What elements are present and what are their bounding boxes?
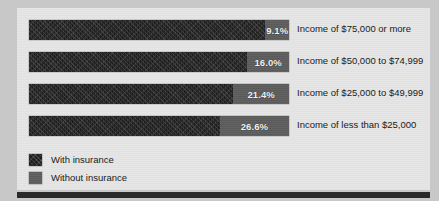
- bar-value-label: 16.0%: [254, 57, 281, 68]
- bar-segment-without-insurance: 26.6%: [220, 116, 289, 136]
- bar-value-label: 26.6%: [241, 121, 268, 132]
- legend-swatch-icon: [29, 154, 42, 166]
- legend-item-with-insurance[interactable]: With insurance: [29, 152, 127, 167]
- legend-item-label: With insurance: [51, 154, 114, 165]
- chart-bar-row: 9.1% Income of $75,000 or more: [29, 20, 289, 40]
- bar-segment-with-insurance: [29, 116, 220, 136]
- legend-swatch-icon: [29, 172, 42, 184]
- bar-segment-with-insurance: [29, 84, 233, 104]
- stacked-bar[interactable]: 21.4%: [29, 84, 289, 104]
- legend-item-without-insurance[interactable]: Without insurance: [29, 170, 127, 185]
- chart-legend: With insurance Without insurance: [29, 152, 127, 188]
- chart-plot-area: 9.1% Income of $75,000 or more 16.0% Inc…: [29, 20, 289, 148]
- bar-segment-without-insurance: 21.4%: [233, 84, 289, 104]
- bar-segment-with-insurance: [29, 20, 265, 40]
- bottom-divider: [17, 192, 430, 198]
- bar-category-label: Income of $50,000 to $74,999: [297, 55, 423, 66]
- bar-category-label: Income of $25,000 to $49,999: [297, 87, 423, 98]
- bar-segment-without-insurance: 9.1%: [265, 20, 289, 40]
- stacked-bar[interactable]: 26.6%: [29, 116, 289, 136]
- stacked-bar[interactable]: 16.0%: [29, 52, 289, 72]
- chart-bar-row: 21.4% Income of $25,000 to $49,999: [29, 84, 289, 104]
- chart-figure: 9.1% Income of $75,000 or more 16.0% Inc…: [0, 0, 439, 201]
- bar-category-label: Income of less than $25,000: [297, 119, 416, 130]
- bar-value-label: 21.4%: [247, 89, 274, 100]
- bar-segment-with-insurance: [29, 52, 247, 72]
- bar-value-label: 9.1%: [266, 25, 288, 36]
- stacked-bar[interactable]: 9.1%: [29, 20, 289, 40]
- chart-bar-row: 16.0% Income of $50,000 to $74,999: [29, 52, 289, 72]
- bar-category-label: Income of $75,000 or more: [297, 23, 411, 34]
- bar-segment-without-insurance: 16.0%: [247, 52, 289, 72]
- legend-item-label: Without insurance: [51, 172, 127, 183]
- chart-bar-row: 26.6% Income of less than $25,000: [29, 116, 289, 136]
